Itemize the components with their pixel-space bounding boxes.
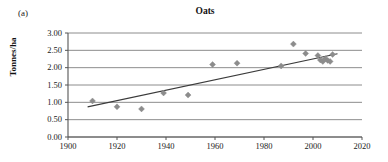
data-point-marker — [290, 41, 296, 47]
data-point-marker — [330, 51, 336, 57]
data-point-marker — [234, 60, 240, 66]
data-point-marker — [114, 104, 120, 110]
data-point-marker — [139, 106, 145, 112]
data-point-marker — [90, 98, 96, 104]
data-point-marker — [185, 92, 191, 98]
plot-area — [0, 0, 388, 162]
data-point-marker — [210, 62, 216, 68]
data-point-marker — [303, 50, 309, 56]
chart-figure: (a) Oats Tonnes/ha 0.000.501.001.502.002… — [0, 0, 388, 162]
